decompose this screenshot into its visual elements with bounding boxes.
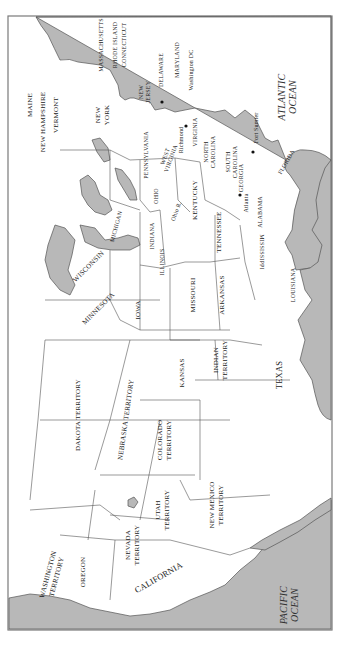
label-kentucky: KENTUCKY [191, 180, 199, 220]
label-washington-dc: Washington DC [188, 50, 194, 91]
label-atlanta: Atlanta [243, 193, 249, 212]
label-rhode-island: RHODE ISLAND [112, 21, 118, 68]
us-civil-war-map: ATLANTICOCEAN PACIFICOCEAN MAINE NEW HAM… [0, 0, 340, 648]
label-kansas: KANSAS [178, 358, 186, 387]
label-dakota-territory: DAKOTA TERRITORY [74, 379, 82, 451]
label-new-hampshire: NEW HAMPSHIRE [39, 92, 47, 153]
washington-dc-marker [160, 100, 163, 103]
fort-sumter-marker [251, 150, 254, 153]
label-alabama: ALABAMA [257, 196, 263, 228]
label-richmond: Richmond [178, 127, 184, 154]
atlanta-marker [238, 193, 241, 196]
label-connecticut: CONNECTICUT [121, 23, 127, 68]
label-vermont: VERMONT [52, 96, 60, 133]
label-oregon: OREGON [79, 557, 87, 587]
label-fort-sumter: Fort Sumter [253, 112, 259, 143]
label-virginia: VIRGINIA [192, 117, 198, 146]
label-ohio: OHIO [153, 188, 159, 204]
label-massachusetts: MASSACHUSETTS [98, 18, 104, 72]
atlantic-ocean-label: ATLANTICOCEAN [276, 73, 298, 121]
label-mississippi: MISSISSIPPI [259, 234, 265, 270]
label-texas: TEXAS [274, 361, 284, 389]
richmond-marker [184, 124, 187, 127]
label-new-york: NEWYORK [94, 105, 111, 126]
label-georgia: GEORGIA [238, 163, 244, 192]
label-tennessee: TENNESSEE [215, 211, 223, 252]
label-colorado-territory: COLORADOTERRITORY [156, 420, 173, 461]
label-pennsylvania: PENNSYLVANIA [143, 131, 149, 179]
label-illinois: ILLINOIS [159, 249, 165, 276]
label-missouri: MISSOURI [189, 277, 197, 313]
label-delaware: DELAWARE [158, 53, 164, 87]
label-indiana: INDIANA [149, 222, 155, 250]
label-iowa: IOWA [134, 300, 142, 319]
label-maryland: MARYLAND [174, 42, 180, 78]
pacific-ocean-label: PACIFICOCEAN [278, 586, 300, 626]
label-new-mexico-territory: NEW MEXICOTERRITORY [208, 481, 225, 528]
label-maine: MAINE [26, 93, 34, 117]
label-arkansas: ARKANSAS [218, 275, 226, 314]
label-nevada-territory: NEVADATERRITORY [124, 525, 141, 566]
label-louisiana: LOUISIANA [290, 267, 296, 302]
